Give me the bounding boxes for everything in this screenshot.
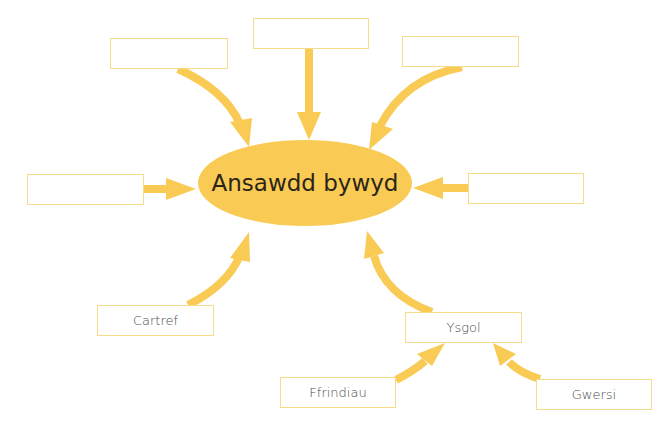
arrow-top-left — [178, 69, 240, 124]
arrowhead-top-right — [369, 122, 393, 150]
arrowhead-top-center — [297, 112, 321, 140]
arrowhead-cartref — [230, 232, 250, 262]
box-top-left[interactable] — [110, 38, 228, 69]
box-label-gwersi: Gwersi — [572, 387, 616, 402]
arrowhead-top-left — [230, 118, 252, 147]
box-ysgol: Ysgol — [405, 312, 522, 343]
arrowhead-ysgol — [364, 231, 384, 259]
arrow-ffrindiau — [396, 361, 425, 380]
box-left[interactable] — [27, 174, 144, 205]
arrow-top-right — [380, 67, 462, 126]
arrowhead-left — [166, 178, 196, 200]
box-label-ysgol: Ysgol — [446, 320, 480, 335]
central-node: Ansawdd bywyd — [198, 140, 412, 226]
box-label-cartref: Cartref — [133, 313, 178, 328]
box-gwersi: Gwersi — [536, 379, 652, 410]
box-ffrindiau: Ffrindiau — [280, 377, 396, 408]
arrow-cartref — [188, 255, 240, 305]
central-node-label: Ansawdd bywyd — [212, 170, 399, 196]
arrow-ysgol — [374, 256, 432, 312]
box-top-right[interactable] — [402, 36, 519, 67]
arrowhead-right — [413, 177, 443, 199]
box-top-center[interactable] — [253, 18, 369, 49]
box-right[interactable] — [468, 173, 584, 204]
arrow-gwersi — [509, 362, 540, 379]
box-cartref: Cartref — [97, 305, 214, 336]
box-label-ffrindiau: Ffrindiau — [309, 385, 366, 400]
